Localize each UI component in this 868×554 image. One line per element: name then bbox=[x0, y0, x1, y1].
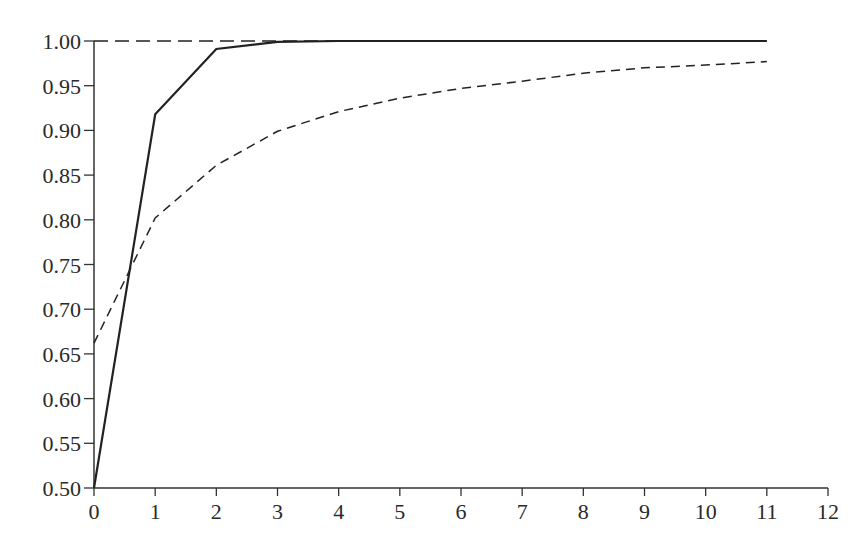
x-tick-label: 12 bbox=[817, 499, 839, 524]
y-axis-ticks: 0.500.550.600.650.700.750.800.850.900.95… bbox=[43, 29, 95, 501]
y-tick-label: 0.65 bbox=[43, 342, 82, 367]
x-tick-label: 8 bbox=[578, 499, 589, 524]
y-tick-label: 0.80 bbox=[43, 208, 82, 233]
x-tick-label: 10 bbox=[695, 499, 717, 524]
y-tick-label: 0.95 bbox=[43, 74, 82, 99]
x-tick-label: 1 bbox=[150, 499, 161, 524]
x-tick-label: 0 bbox=[89, 499, 100, 524]
y-tick-label: 0.85 bbox=[43, 163, 82, 188]
series-dashed-line bbox=[94, 62, 767, 344]
series-solid-line bbox=[94, 41, 767, 488]
y-tick-label: 0.70 bbox=[43, 297, 82, 322]
y-tick-label: 0.55 bbox=[43, 431, 82, 456]
line-chart: 0123456789101112 0.500.550.600.650.700.7… bbox=[0, 0, 868, 554]
y-tick-label: 0.50 bbox=[43, 476, 82, 501]
x-tick-label: 5 bbox=[394, 499, 405, 524]
series-lines bbox=[94, 41, 767, 488]
y-tick-label: 0.90 bbox=[43, 118, 82, 143]
x-tick-label: 9 bbox=[639, 499, 650, 524]
x-tick-label: 2 bbox=[211, 499, 222, 524]
x-axis-ticks: 0123456789101112 bbox=[89, 488, 840, 524]
axes bbox=[94, 41, 828, 488]
x-tick-label: 11 bbox=[756, 499, 777, 524]
x-tick-label: 6 bbox=[456, 499, 467, 524]
x-tick-label: 7 bbox=[517, 499, 528, 524]
y-tick-label: 0.75 bbox=[43, 253, 82, 278]
y-tick-label: 0.60 bbox=[43, 387, 82, 412]
x-tick-label: 3 bbox=[272, 499, 283, 524]
x-tick-label: 4 bbox=[333, 499, 344, 524]
y-tick-label: 1.00 bbox=[43, 29, 82, 54]
